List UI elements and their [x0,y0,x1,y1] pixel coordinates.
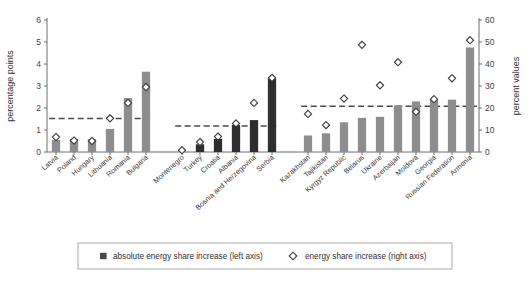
y2-axis-title: percent values [511,56,521,115]
svg-text:6: 6 [36,15,41,25]
bar-lithuania [106,129,114,152]
svg-text:5: 5 [36,37,41,47]
bar-azerbaijan [394,105,402,152]
marker-latvia [52,133,59,140]
svg-text:60: 60 [485,15,495,25]
bar-series [52,48,474,153]
svg-text:20: 20 [485,103,495,113]
marker-azerbaijan [394,59,401,66]
marker-belarus [358,41,365,48]
svg-text:0: 0 [485,147,490,157]
bar-bosnia-and-herzegovina [250,120,258,152]
marker-russian-federation [448,75,455,82]
svg-text:50: 50 [485,37,495,47]
legend-label-diamonds: energy share increase (right axis) [305,252,427,261]
chart-axes: 01234560102030405060percentage pointsper… [5,15,521,157]
diamond-series [52,37,473,154]
marker-lithuania [106,115,113,122]
marker-armenia [466,37,473,44]
bar-russian-federation [448,100,456,152]
bar-kazakhstan [304,136,312,153]
category-labels: LatviaPolandHungaryLithuaniaRomaniaBulga… [40,153,474,212]
marker-ukraine [376,82,383,89]
svg-text:1: 1 [36,125,41,135]
category-label-serbia: Serbia [254,153,275,174]
chart-figure: 01234560102030405060percentage pointsper… [0,0,530,285]
svg-text:2: 2 [36,103,41,113]
bar-albania [232,125,240,152]
y-axis-title: percentage points [5,50,15,122]
svg-text:10: 10 [485,125,495,135]
bar-tajikistan [322,133,330,152]
category-label-montenegro: Montenegro [151,153,186,185]
bar-ukraine [376,117,384,152]
bar-belarus [358,118,366,152]
svg-text:4: 4 [36,59,41,69]
energy-share-increase-chart: 01234560102030405060percentage pointsper… [0,0,530,285]
marker-kyrgyz-republic [340,95,347,102]
bar-serbia [268,78,276,152]
svg-text:30: 30 [485,81,495,91]
svg-text:3: 3 [36,81,41,91]
svg-text:40: 40 [485,59,495,69]
bar-armenia [466,48,474,153]
chart-legend: absolute energy share increase (left axi… [78,243,452,269]
bar-georgia [430,99,438,152]
marker-tajikistan [322,122,329,129]
legend-swatch-bars [100,253,107,259]
legend-label-bars: absolute energy share increase (left axi… [113,252,263,261]
marker-bosnia-and-herzegovina [250,99,257,106]
bar-latvia [52,140,60,152]
bar-kyrgyz-republic [340,122,348,152]
marker-kazakhstan [304,110,311,117]
svg-text:0: 0 [36,147,41,157]
